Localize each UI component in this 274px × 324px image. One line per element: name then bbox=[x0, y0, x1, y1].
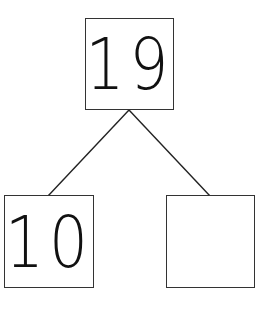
part-box-right[interactable] bbox=[166, 195, 255, 288]
connector-right bbox=[129, 110, 210, 196]
part-box-left: 10 bbox=[4, 195, 94, 288]
whole-value: 19 bbox=[93, 19, 167, 109]
whole-box: 19 bbox=[85, 18, 174, 110]
part-value-right bbox=[174, 196, 248, 287]
part-value-left: 10 bbox=[12, 196, 87, 287]
connector-left bbox=[48, 110, 129, 196]
